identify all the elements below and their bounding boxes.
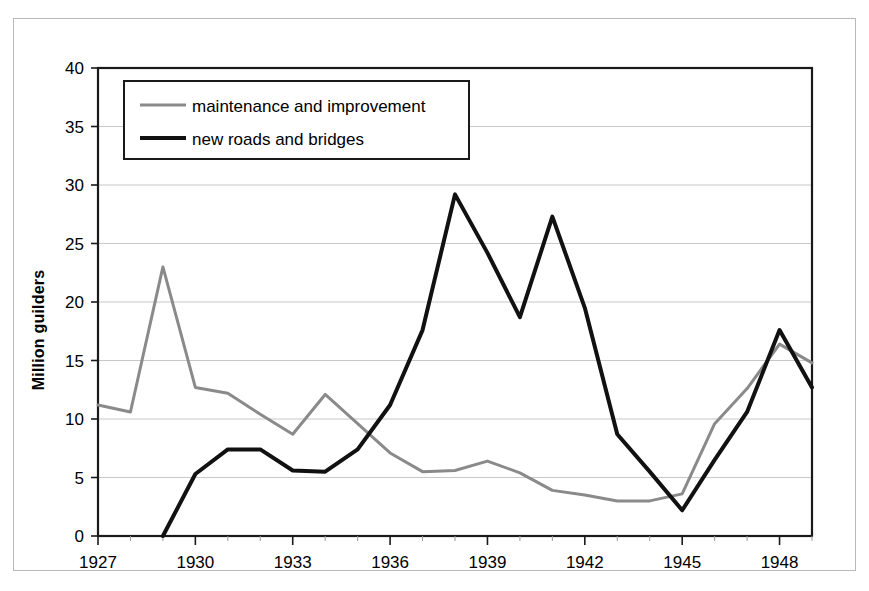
legend-label: maintenance and improvement bbox=[192, 97, 426, 116]
y-tick-label: 10 bbox=[65, 410, 84, 429]
y-tick-label: 5 bbox=[75, 469, 84, 488]
x-tick-label: 1936 bbox=[371, 553, 409, 572]
gridlines-group bbox=[98, 127, 812, 478]
y-tick-label: 15 bbox=[65, 352, 84, 371]
x-tick-label: 1948 bbox=[761, 553, 799, 572]
legend-label: new roads and bridges bbox=[192, 130, 364, 149]
y-axis-ticks: 0510152025303540 bbox=[65, 59, 98, 546]
y-axis-title-group: Million guilders bbox=[30, 270, 47, 391]
y-tick-label: 25 bbox=[65, 235, 84, 254]
y-tick-label: 35 bbox=[65, 118, 84, 137]
x-tick-label: 1942 bbox=[566, 553, 604, 572]
chart-figure: 0510152025303540 19271930193319361939194… bbox=[0, 0, 869, 591]
x-tick-label: 1939 bbox=[469, 553, 507, 572]
series-layer bbox=[98, 194, 812, 536]
y-tick-label: 30 bbox=[65, 176, 84, 195]
x-tick-label: 1927 bbox=[79, 553, 117, 572]
y-tick-label: 20 bbox=[65, 293, 84, 312]
y-axis-title: Million guilders bbox=[30, 270, 47, 391]
line-chart: 0510152025303540 19271930193319361939194… bbox=[0, 0, 869, 591]
chart-legend: maintenance and improvementnew roads and… bbox=[124, 81, 469, 159]
x-axis-ticks: 19271930193319361939194219451948 bbox=[79, 536, 812, 572]
y-tick-label: 40 bbox=[65, 59, 84, 78]
y-tick-label: 0 bbox=[75, 527, 84, 546]
x-tick-label: 1933 bbox=[274, 553, 312, 572]
x-tick-label: 1945 bbox=[663, 553, 701, 572]
series-line-new-roads-and-bridges bbox=[163, 194, 812, 536]
x-tick-label: 1930 bbox=[176, 553, 214, 572]
